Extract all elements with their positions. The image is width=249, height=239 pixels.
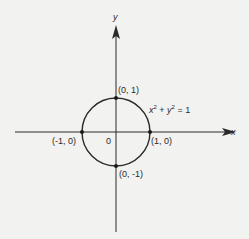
point-label-1-0: (1, 0) (151, 136, 172, 146)
equation-label: x2 + y2 = 1 (149, 105, 190, 115)
point-label-0-neg1: (0, -1) (119, 169, 143, 179)
equation-rhs: = 1 (175, 105, 190, 115)
point-label-neg1-0: (-1, 0) (52, 136, 76, 146)
point-0-1 (114, 96, 118, 100)
origin-label: 0 (106, 136, 111, 146)
point-label-0-1: (0, 1) (118, 85, 139, 95)
x-axis-label: x (231, 127, 236, 137)
point-neg1-0 (80, 130, 84, 134)
point-1-0 (148, 130, 152, 134)
diagram-canvas (0, 0, 249, 239)
y-axis-label: y (113, 12, 118, 22)
equation-plus: + (157, 105, 167, 115)
point-0-neg1 (114, 164, 118, 168)
